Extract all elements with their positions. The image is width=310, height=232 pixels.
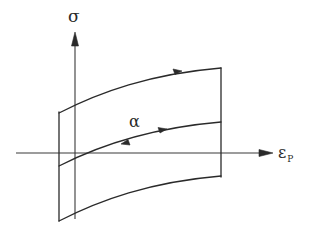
strain-axis-label-subscript: P — [287, 154, 293, 164]
strain-axis: εP — [16, 143, 293, 164]
sigma-axis-label: σ — [68, 6, 80, 26]
sigma-axis: σ — [68, 6, 80, 219]
lower-bound-path — [59, 176, 221, 221]
diagram-canvas: σ εP α — [0, 0, 310, 232]
strain-axis-label-main: ε — [278, 143, 286, 162]
upper-bound-path — [59, 68, 221, 113]
back-stress-path — [59, 122, 221, 166]
alpha-label: α — [129, 112, 140, 131]
upper-bound-curve — [59, 68, 221, 113]
back-stress-curve: α — [59, 112, 221, 166]
sigma-axis-arrowhead-icon — [72, 32, 79, 46]
lower-bound-curve — [59, 176, 221, 221]
strain-axis-label: εP — [278, 143, 293, 164]
strain-axis-arrowhead-icon — [259, 150, 273, 157]
